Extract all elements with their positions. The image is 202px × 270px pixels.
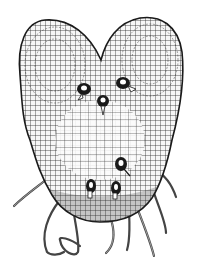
prothallus-body bbox=[19, 17, 182, 225]
illustration-canvas bbox=[0, 0, 202, 270]
prothallus-drawing bbox=[0, 0, 202, 270]
